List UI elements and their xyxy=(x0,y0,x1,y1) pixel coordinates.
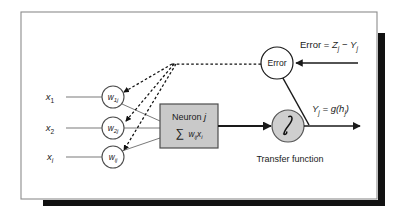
neuron-box-title: Neuron j xyxy=(172,111,207,122)
neuron-box xyxy=(160,104,218,148)
transfer-function-caption: Transfer function xyxy=(256,154,323,164)
neuron-diagram: x1 x2 xi w1j w2j wij Ne xyxy=(0,0,410,218)
error-node-label: Error xyxy=(267,58,286,68)
shadow-right xyxy=(378,33,385,205)
shadow-bottom xyxy=(43,200,385,206)
diagram-canvas: x1 x2 xi w1j w2j wij Ne xyxy=(0,0,410,218)
